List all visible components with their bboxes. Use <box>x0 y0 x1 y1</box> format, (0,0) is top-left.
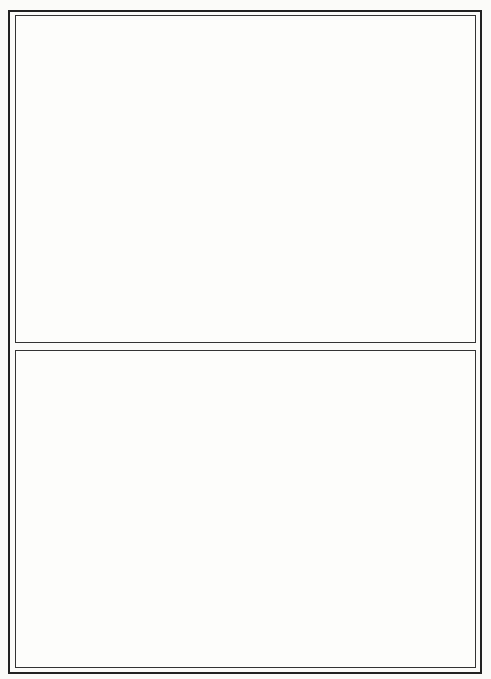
detail-map-california-texas <box>16 351 476 668</box>
top-map-panel <box>15 15 476 343</box>
southwest-us-map <box>16 16 476 343</box>
bottom-map-panel <box>15 350 476 668</box>
